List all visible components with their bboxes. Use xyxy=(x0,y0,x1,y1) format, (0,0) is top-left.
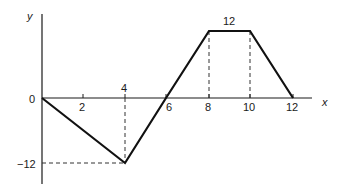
y-tick-label-neg12: −12 xyxy=(17,158,36,170)
dashed-guides xyxy=(42,31,250,163)
x-tick-label-2: 2 xyxy=(79,101,85,113)
x-tick-label-10: 10 xyxy=(243,101,255,113)
plateau-label: 12 xyxy=(223,15,235,27)
x-tick-label-6: 6 xyxy=(166,101,172,113)
y-axis-label: y xyxy=(26,10,34,22)
piecewise-line-chart: y x 0 2 4 6 8 10 12 12 −12 xyxy=(0,0,344,191)
origin-label: 0 xyxy=(29,93,35,105)
x-tick-label-4: 4 xyxy=(121,82,127,94)
data-line xyxy=(42,31,293,163)
x-tick-label-12: 12 xyxy=(286,101,298,113)
x-tick-label-8: 8 xyxy=(205,101,211,113)
x-axis-label: x xyxy=(321,96,328,108)
